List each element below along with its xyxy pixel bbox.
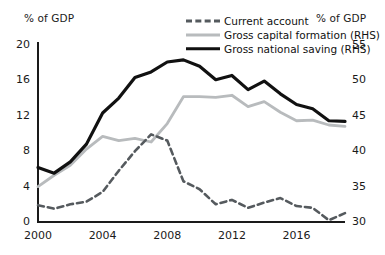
axis-lines	[38, 42, 345, 222]
y-axis-tick-20: 20	[8, 38, 30, 51]
y2-axis-tick-55: 55	[352, 38, 376, 51]
x-axis-tick-2008: 2008	[144, 229, 190, 242]
y-axis-tick-8: 8	[8, 144, 30, 157]
y-axis-tick-12: 12	[8, 109, 30, 122]
series-line-gross-capital-formation-rhs	[38, 95, 345, 186]
y2-axis-tick-50: 50	[352, 73, 376, 86]
x-axis-tick-2012: 2012	[209, 229, 255, 242]
y-axis-tick-4: 4	[8, 180, 30, 193]
y2-axis-tick-35: 35	[352, 180, 376, 193]
y2-axis-tick-40: 40	[352, 144, 376, 157]
x-axis-tick-2016: 2016	[274, 229, 320, 242]
y-axis-tick-0: 0	[8, 215, 30, 228]
y-axis-tick-16: 16	[8, 73, 30, 86]
chart-container: % of GDP % of GDP Current account Gross …	[0, 0, 385, 255]
series-line-gross-national-saving-rhs	[38, 60, 345, 173]
y2-axis-tick-45: 45	[352, 109, 376, 122]
plot-area	[0, 0, 385, 255]
x-axis-tick-2000: 2000	[15, 229, 61, 242]
x-axis-tick-2004: 2004	[80, 229, 126, 242]
y2-axis-tick-30: 30	[352, 215, 376, 228]
